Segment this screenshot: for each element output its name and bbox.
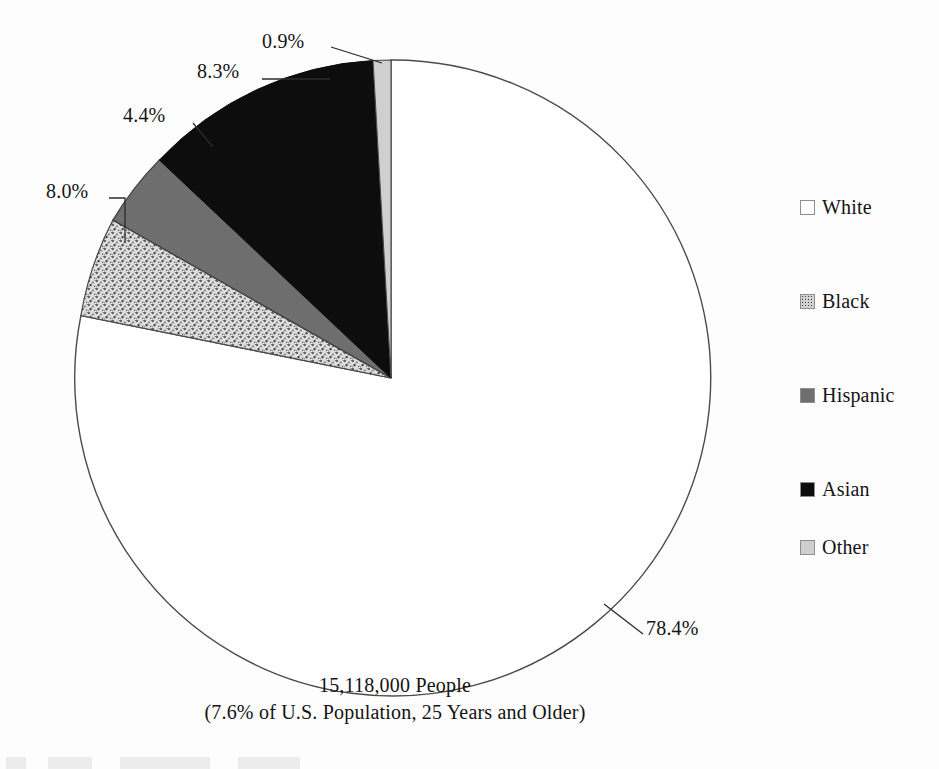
legend-label: White	[822, 196, 872, 219]
caption-line-share: (7.6% of U.S. Population, 25 Years and O…	[0, 699, 790, 726]
slice-label-black: 8.0%	[46, 180, 88, 203]
chart-legend: White Black Hispanic Asian Other	[800, 160, 935, 559]
black-swatch-icon	[800, 482, 815, 497]
legend-item-other: Other	[800, 536, 935, 559]
legend-label: Black	[822, 290, 870, 313]
pie-chart-figure: 0.9% 8.3% 4.4% 8.0% 78.4% White Black Hi…	[0, 0, 939, 769]
leader-line-other	[331, 47, 382, 63]
legend-label: Asian	[822, 478, 870, 501]
gray-swatch-icon	[800, 388, 815, 403]
slice-label-white: 78.4%	[646, 617, 699, 640]
leader-line-white	[604, 604, 643, 634]
chart-caption: 15,118,000 People (7.6% of U.S. Populati…	[0, 672, 790, 726]
legend-label: Hispanic	[822, 384, 895, 407]
light-gray-swatch-icon	[800, 540, 815, 555]
caption-line-population: 15,118,000 People	[0, 672, 790, 699]
speckled-swatch-icon	[800, 294, 815, 309]
legend-label: Other	[822, 536, 869, 559]
white-swatch-icon	[800, 200, 815, 215]
slice-label-hispanic: 4.4%	[123, 104, 165, 127]
legend-item-asian: Asian	[800, 442, 935, 536]
scan-artifact	[0, 757, 420, 769]
slice-label-asian: 8.3%	[197, 60, 239, 83]
legend-item-white: White	[800, 160, 935, 254]
slice-label-other: 0.9%	[262, 30, 304, 53]
legend-item-hispanic: Hispanic	[800, 348, 935, 442]
legend-item-black: Black	[800, 254, 935, 348]
